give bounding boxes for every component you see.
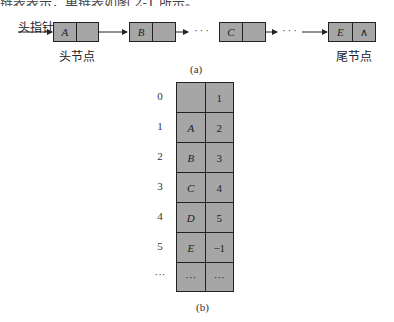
next-cell: −1 <box>206 233 234 262</box>
data-cell: C <box>177 173 206 202</box>
list-node-c: C <box>219 22 266 42</box>
row-index: 0 <box>150 90 170 102</box>
list-node-b: B <box>129 22 176 42</box>
caption-a: (a) <box>190 63 202 75</box>
ellipsis-2: ··· <box>282 24 299 36</box>
node-data: B <box>130 23 153 41</box>
data-cell: E <box>177 233 206 262</box>
node-next <box>243 23 265 41</box>
table-row: A 2 <box>177 113 233 143</box>
node-next <box>77 23 99 41</box>
next-cell: ··· <box>206 263 234 291</box>
row-index: 3 <box>150 180 170 192</box>
data-cell: ··· <box>177 263 206 291</box>
row-index: 4 <box>150 210 170 222</box>
array-table: 1 A 2 B 3 C 4 D 5 E −1 ··· ··· <box>176 82 234 292</box>
table-row: D 5 <box>177 203 233 233</box>
row-index: 1 <box>150 120 170 132</box>
data-cell: A <box>177 113 206 142</box>
list-node-a: A <box>53 22 99 42</box>
caption-b: (b) <box>196 301 209 313</box>
next-cell: 1 <box>206 83 234 112</box>
node-data: A <box>54 23 77 41</box>
null-pointer-symbol: ∧ <box>353 23 376 41</box>
head-pointer-label: 头指针 <box>18 18 54 35</box>
row-index: 2 <box>150 150 170 162</box>
table-row: 1 <box>177 83 233 113</box>
row-index: 5 <box>150 240 170 252</box>
data-cell: B <box>177 143 206 172</box>
node-next <box>153 23 175 41</box>
node-data: C <box>220 23 243 41</box>
node-data: E <box>329 23 353 41</box>
table-row: C 4 <box>177 173 233 203</box>
data-cell <box>177 83 206 112</box>
head-node-label: 头节点 <box>59 47 95 64</box>
next-cell: 3 <box>206 143 234 172</box>
table-row: E −1 <box>177 233 233 263</box>
next-cell: 2 <box>206 113 234 142</box>
row-index: ··· <box>150 268 170 280</box>
data-cell: D <box>177 203 206 232</box>
ellipsis-1: ··· <box>194 24 211 36</box>
table-row: B 3 <box>177 143 233 173</box>
list-node-e: E ∧ <box>328 22 376 42</box>
table-row: ··· ··· <box>177 263 233 291</box>
tail-node-label: 尾节点 <box>336 47 372 64</box>
next-cell: 4 <box>206 173 234 202</box>
next-cell: 5 <box>206 203 234 232</box>
clipped-heading-text: 链表表示，单链表如图 2-1 所示。 <box>0 0 394 6</box>
